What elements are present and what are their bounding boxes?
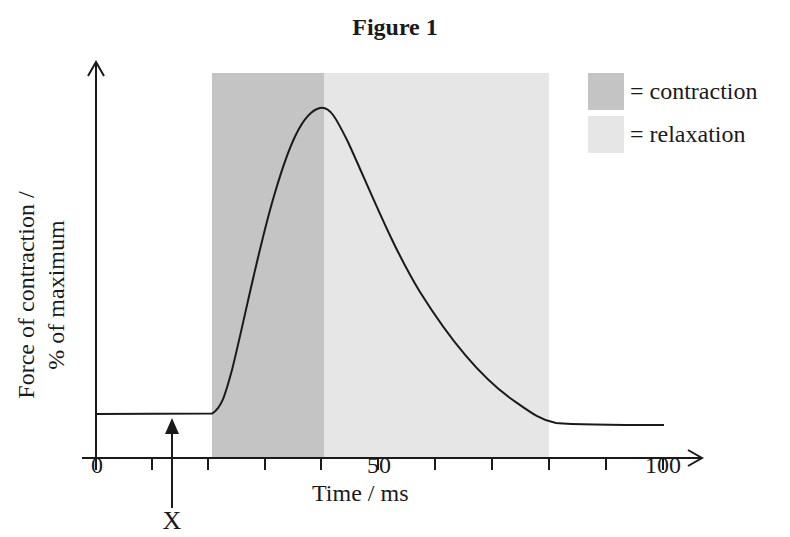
legend-label-relaxation: = relaxation	[630, 121, 746, 148]
x-axis-label: Time / ms	[312, 480, 408, 507]
legend-item-contraction: = contraction	[588, 73, 758, 110]
x-tick-label-0: 0	[91, 452, 103, 479]
legend-label-contraction: = contraction	[630, 78, 758, 105]
x-marker-arrowhead-icon	[165, 418, 179, 434]
y-axis-label: Force of contraction / % of maximum	[10, 150, 72, 440]
x-marker-label: X	[163, 506, 182, 536]
y-axis-label-line2: % of maximum	[41, 150, 71, 440]
x-tick-label-50: 50	[367, 452, 391, 479]
contraction-swatch	[588, 73, 624, 110]
legend: = contraction = relaxation	[588, 73, 758, 159]
contraction-region	[212, 73, 324, 458]
x-tick-label-100: 100	[645, 452, 681, 479]
y-axis-label-line1: Force of contraction /	[11, 150, 41, 440]
relaxation-region	[324, 73, 549, 458]
legend-item-relaxation: = relaxation	[588, 116, 758, 153]
relaxation-swatch	[588, 116, 624, 153]
